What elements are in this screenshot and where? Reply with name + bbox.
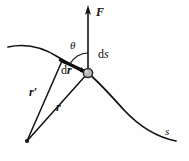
diagram-canvas (0, 0, 189, 161)
particle-marker-highlight (85, 70, 88, 73)
ds-label: ds (98, 48, 109, 60)
theta-angle-arc (70, 53, 88, 64)
trajectory-path-curve-descending (88, 73, 176, 141)
theta-angle-label: θ (70, 40, 75, 51)
ds-label-symbol: s (104, 47, 109, 61)
r-prime-vector-label: r′ (29, 86, 37, 98)
r-vector-label: r (56, 101, 61, 113)
origin-point-marker (25, 139, 29, 143)
particle-marker (83, 68, 92, 77)
physics-diagram-figure: F θ ds dr r′ r s (0, 0, 189, 161)
path-label: s (165, 126, 169, 137)
force-vector-label: F (96, 6, 104, 18)
dr-label-symbol: r (67, 63, 72, 77)
dr-label: dr (61, 64, 72, 76)
